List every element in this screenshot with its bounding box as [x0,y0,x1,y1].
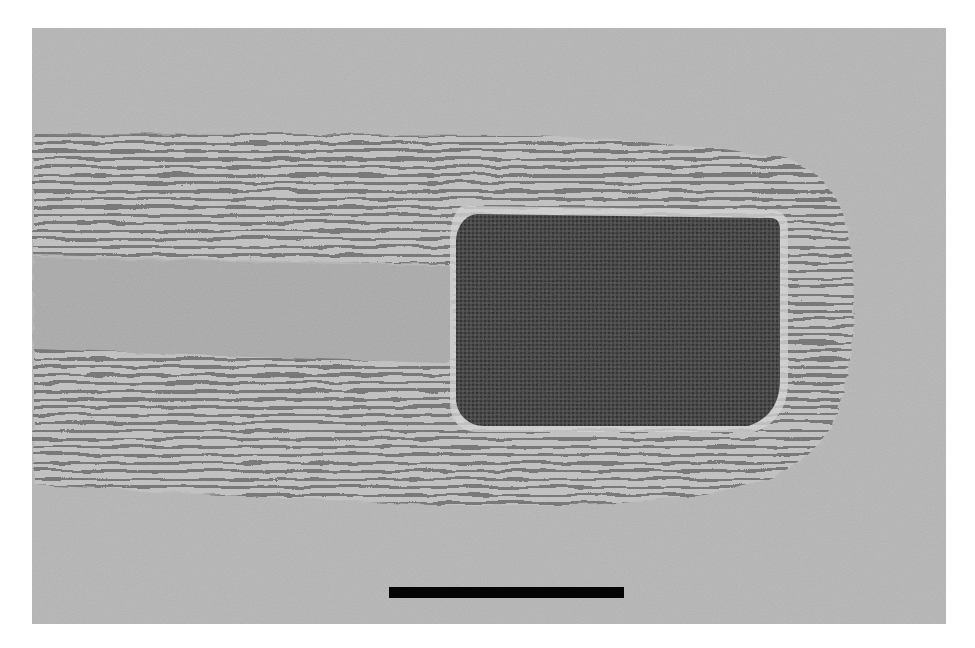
tem-micrograph [32,28,946,624]
scale-bar [389,587,624,598]
